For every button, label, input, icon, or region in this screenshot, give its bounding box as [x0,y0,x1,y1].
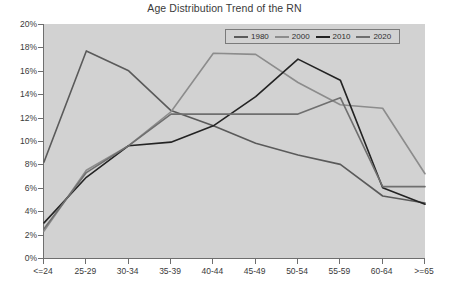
x-tick-label: 35-39 [159,266,181,276]
x-tick-mark [339,259,340,264]
y-tick-label: 16% [0,66,37,76]
y-tick-label: 4% [0,206,37,216]
y-tick-mark [38,188,43,189]
y-tick-mark [38,71,43,72]
x-tick-mark [43,259,44,264]
x-tick-mark [128,259,129,264]
plot-lines [44,24,425,258]
x-tick-label: 55-59 [328,266,350,276]
y-axis: 0%2%4%6%8%10%12%14%16%18%20% [0,24,37,258]
x-tick-mark [382,259,383,264]
y-tick-label: 8% [0,159,37,169]
legend-label: 2000 [292,32,310,41]
x-tick-mark [297,259,298,264]
y-tick-mark [38,235,43,236]
y-tick-label: 20% [0,19,37,29]
y-tick-mark [38,24,43,25]
plot-area [43,24,425,259]
series-line-2010 [44,59,425,223]
series-line-2000 [44,53,425,231]
chart-container: Age Distribution Trend of the RN 0%2%4%6… [0,0,449,289]
y-tick-label: 6% [0,183,37,193]
y-tick-label: 14% [0,89,37,99]
x-tick-label: 40-44 [201,266,223,276]
legend-label: 2020 [373,32,391,41]
x-axis: <=2425-2930-3435-3940-4445-4950-5455-596… [43,266,424,282]
y-tick-mark [38,141,43,142]
legend-item-2000[interactable]: 2000 [275,32,310,41]
chart-title: Age Distribution Trend of the RN [0,2,449,14]
legend-line-icon [356,36,370,38]
legend-label: 1980 [251,32,269,41]
y-tick-mark [38,211,43,212]
x-tick-label: 50-54 [286,266,308,276]
x-tick-mark [212,259,213,264]
y-tick-mark [38,118,43,119]
x-tick-mark [255,259,256,264]
x-tick-label: 45-49 [244,266,266,276]
legend-item-2010[interactable]: 2010 [316,32,351,41]
x-tick-label: >=65 [414,266,433,276]
series-line-1980 [44,51,425,203]
x-tick-mark [170,259,171,264]
y-tick-label: 12% [0,113,37,123]
y-tick-label: 18% [0,42,37,52]
legend-line-icon [316,36,330,38]
y-tick-label: 10% [0,136,37,146]
legend-label: 2010 [333,32,351,41]
x-tick-label: 25-29 [74,266,96,276]
legend-item-2020[interactable]: 2020 [356,32,391,41]
y-tick-mark [38,94,43,95]
x-tick-mark [424,259,425,264]
y-tick-label: 2% [0,230,37,240]
x-tick-mark [85,259,86,264]
x-tick-label: <=24 [33,266,52,276]
chart-legend: 1980200020102020 [225,29,400,44]
legend-line-icon [234,36,248,38]
x-tick-label: 60-64 [371,266,393,276]
y-tick-mark [38,47,43,48]
x-tick-label: 30-34 [117,266,139,276]
legend-item-1980[interactable]: 1980 [234,32,269,41]
y-tick-label: 0% [0,253,37,263]
series-line-2020 [44,98,425,229]
y-tick-mark [38,164,43,165]
legend-line-icon [275,36,289,38]
